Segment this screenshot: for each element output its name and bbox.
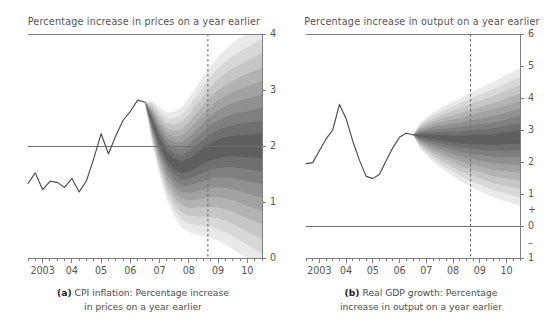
y-tick-label: 1 bbox=[528, 188, 534, 199]
y-tick-label: 2 bbox=[270, 140, 276, 151]
x-tick-label: 08 bbox=[183, 265, 195, 276]
x-tick-label: 2003 bbox=[307, 265, 331, 276]
y-tick-label: 4 bbox=[270, 28, 276, 39]
y-tick-label: 1 bbox=[528, 252, 534, 263]
y-tick-label: 3 bbox=[270, 84, 276, 95]
x-tick-label: 05 bbox=[367, 265, 379, 276]
panel-real-gdp-growth: Percentage increase in output on a year … bbox=[280, 0, 560, 325]
cpi-inflation-plot: 01234200304050607080910 bbox=[0, 0, 280, 280]
x-tick-label: 07 bbox=[420, 265, 432, 276]
x-tick-label: 06 bbox=[394, 265, 406, 276]
y-tick-label: 6 bbox=[528, 28, 534, 39]
panel-b-caption-label: (b) bbox=[345, 287, 360, 298]
fan-chart-figure: Percentage increase in prices on a year … bbox=[0, 0, 560, 325]
x-tick-label: 07 bbox=[154, 265, 166, 276]
x-tick-label: 05 bbox=[95, 265, 107, 276]
real-gdp-growth-plot: 10123456+–200304050607080910 bbox=[280, 0, 560, 280]
x-tick-label: 10 bbox=[241, 265, 253, 276]
history-line bbox=[306, 104, 413, 178]
panel-a-caption-line2: in prices on a year earlier bbox=[84, 301, 202, 312]
y-sign-minus: – bbox=[528, 237, 533, 248]
x-tick-label: 10 bbox=[501, 265, 513, 276]
y-axis-ticks: 01234 bbox=[262, 28, 276, 263]
y-tick-label: 0 bbox=[528, 220, 534, 231]
y-tick-label: 5 bbox=[528, 60, 534, 71]
x-tick-label: 09 bbox=[212, 265, 224, 276]
y-tick-label: 1 bbox=[270, 196, 276, 207]
x-tick-label: 09 bbox=[474, 265, 486, 276]
x-tick-label: 06 bbox=[124, 265, 136, 276]
y-sign-plus: + bbox=[528, 204, 536, 215]
panel-a-caption: (a) CPI inflation: Percentage increase i… bbox=[8, 286, 278, 313]
x-tick-label: 08 bbox=[447, 265, 459, 276]
panel-cpi-inflation: Percentage increase in prices on a year … bbox=[0, 0, 280, 325]
panel-b-caption: (b) Real GDP growth: Percentage increase… bbox=[286, 286, 556, 313]
y-tick-label: 4 bbox=[528, 92, 534, 103]
y-tick-label: 0 bbox=[270, 252, 276, 263]
probability-fan bbox=[413, 68, 520, 206]
y-tick-label: 2 bbox=[528, 156, 534, 167]
y-tick-label: 3 bbox=[528, 124, 534, 135]
panel-a-caption-label: (a) bbox=[57, 287, 72, 298]
x-tick-label: 2003 bbox=[30, 265, 54, 276]
x-axis-ticks: 200304050607080910 bbox=[306, 258, 520, 276]
y-axis-ticks: 10123456+– bbox=[520, 28, 536, 263]
panel-b-caption-line2: increase in output on a year earlier bbox=[340, 301, 502, 312]
x-tick-label: 04 bbox=[66, 265, 78, 276]
panel-a-caption-line1: CPI inflation: Percentage increase bbox=[75, 287, 229, 298]
x-axis-ticks: 200304050607080910 bbox=[28, 258, 262, 276]
panel-b-caption-line1: Real GDP growth: Percentage bbox=[362, 287, 497, 298]
x-tick-label: 04 bbox=[340, 265, 352, 276]
